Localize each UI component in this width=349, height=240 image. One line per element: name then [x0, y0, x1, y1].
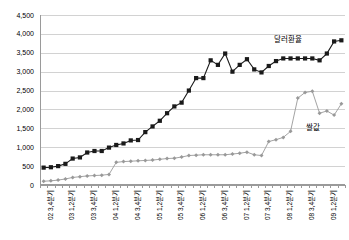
x-axis-tick-label: 08 1,2분기: [286, 190, 293, 220]
x-axis-tick-label: 06 3,4분기: [221, 190, 228, 220]
x-axis-tick: [105, 185, 106, 188]
x-axis-tick: [142, 185, 143, 188]
x-axis-tick-label: 02 3,4분기: [47, 190, 54, 220]
x-axis-tick: [76, 185, 77, 188]
x-axis-tick: [163, 185, 164, 188]
x-axis-tick: [200, 185, 201, 188]
x-axis-tick: [62, 185, 63, 188]
x-axis-tick-label: 03 3,4분기: [90, 190, 97, 220]
x-axis-tick: [272, 185, 273, 188]
x-axis-tick: [84, 185, 85, 188]
x-axis-tick-label: 05 1,2분기: [156, 190, 163, 220]
y-axis-tick-label: 2,500: [0, 87, 34, 94]
x-axis-tick-label: 06 1,2분기: [199, 190, 206, 220]
x-axis-tick: [98, 185, 99, 188]
x-axis-tick: [185, 185, 186, 188]
x-axis-tick: [156, 185, 157, 188]
x-axis-tick-label: 08 3,4분기: [308, 190, 315, 220]
x-axis-tick: [330, 185, 331, 188]
x-axis-tick: [40, 185, 41, 188]
x-axis-tick: [258, 185, 259, 188]
y-axis-tick-label: 1,500: [0, 125, 34, 132]
x-axis-tick-label: 03 1,2분기: [68, 190, 75, 220]
x-axis-tick: [120, 185, 121, 188]
x-axis-tick: [316, 185, 317, 188]
x-axis-tick: [55, 185, 56, 188]
y-axis-tick-label: 500: [0, 163, 34, 170]
x-axis-tick: [193, 185, 194, 188]
x-axis-tick: [229, 185, 230, 188]
x-axis-tick: [294, 185, 295, 188]
x-axis-tick: [207, 185, 208, 188]
x-axis-tick: [243, 185, 244, 188]
x-axis-tick: [265, 185, 266, 188]
x-axis-tick: [134, 185, 135, 188]
x-axis-tick: [309, 185, 310, 188]
y-axis-tick-label: 4,500: [0, 12, 34, 19]
x-axis-ticks: [40, 185, 345, 189]
x-axis-tick: [287, 185, 288, 188]
x-axis-tick: [251, 185, 252, 188]
x-axis-tick: [214, 185, 215, 188]
series-label-dollar-exchange-rate: 달러환율: [274, 36, 302, 44]
x-axis-tick: [91, 185, 92, 188]
chart-container: 05001,0001,5002,0002,5003,0003,5004,0004…: [0, 0, 349, 240]
x-axis-tick: [113, 185, 114, 188]
x-axis-tick-label: 07 3,4분기: [264, 190, 271, 220]
x-axis-tick: [323, 185, 324, 188]
x-axis-tick: [345, 185, 346, 188]
x-axis-tick: [178, 185, 179, 188]
x-axis-tick: [149, 185, 150, 188]
y-axis-tick-label: 1,000: [0, 144, 34, 151]
x-axis-tick: [222, 185, 223, 188]
x-axis-tick-label: 04 1,2분기: [112, 190, 119, 220]
x-axis-tick-label: 09 1,2분기: [330, 190, 337, 220]
x-axis-tick: [236, 185, 237, 188]
x-axis-tick: [47, 185, 48, 188]
y-axis-tick-label: 3,500: [0, 49, 34, 56]
series-label-rice-price: 쌀값: [306, 124, 320, 132]
x-axis-tick: [69, 185, 70, 188]
x-axis-tick: [301, 185, 302, 188]
y-axis-tick-label: 0: [0, 182, 34, 189]
x-axis-tick: [280, 185, 281, 188]
x-axis-tick-label: 07 1,2분기: [243, 190, 250, 220]
x-axis-labels: 02 3,4분기03 1,2분기03 3,4분기04 1,2분기04 3,4분기…: [40, 190, 345, 240]
x-axis-tick-label: 05 3,4분기: [177, 190, 184, 220]
x-axis-tick-label: 04 3,4분기: [134, 190, 141, 220]
x-axis-tick: [171, 185, 172, 188]
y-axis-tick-label: 3,000: [0, 68, 34, 75]
x-axis-tick: [127, 185, 128, 188]
x-axis-tick: [338, 185, 339, 188]
y-axis-tick-label: 2,000: [0, 106, 34, 113]
y-axis-tick-label: 4,000: [0, 30, 34, 37]
